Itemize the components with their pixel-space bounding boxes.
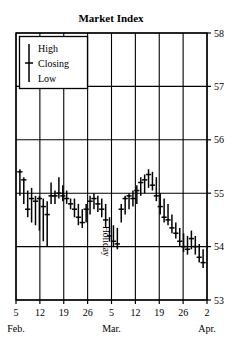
annotation-holiday: Holiday xyxy=(101,226,111,257)
x-axis-tick-label: 26 xyxy=(83,307,93,318)
legend-label-high: High xyxy=(38,43,58,54)
y-axis-tick-label: 57 xyxy=(214,81,224,92)
x-axis-tick-label: 26 xyxy=(178,307,188,318)
x-axis-tick-label: 5 xyxy=(14,307,19,318)
market-index-chart: Market Index 535455565758 51219265121926… xyxy=(0,0,242,348)
y-axis-tick-label: 56 xyxy=(214,134,224,145)
legend-label-closing: Closing xyxy=(38,58,69,69)
x-axis-tick-label: 2 xyxy=(205,307,210,318)
x-axis-tick-label: 19 xyxy=(59,307,69,318)
chart-title: Market Index xyxy=(78,12,144,24)
y-axis-tick-label: 54 xyxy=(214,241,224,252)
x-axis-month-label: Feb. xyxy=(7,323,25,334)
x-axis-tick-label: 12 xyxy=(130,307,140,318)
y-axis-tick-label: 55 xyxy=(214,188,224,199)
x-axis-tick-label: 19 xyxy=(154,307,164,318)
x-axis-month-label: Apr. xyxy=(198,323,216,334)
x-axis-month-label: Mar. xyxy=(102,323,121,334)
chart-annotations: Holiday xyxy=(101,226,111,257)
chart-canvas: Market Index 535455565758 51219265121926… xyxy=(0,0,242,348)
y-axis-tick-label: 53 xyxy=(214,295,224,306)
chart-legend: High Closing Low xyxy=(20,37,88,89)
legend-label-low: Low xyxy=(38,73,57,84)
x-axis-tick-label: 5 xyxy=(109,307,114,318)
x-axis-tick-label: 12 xyxy=(35,307,45,318)
y-axis-tick-label: 58 xyxy=(214,28,224,39)
